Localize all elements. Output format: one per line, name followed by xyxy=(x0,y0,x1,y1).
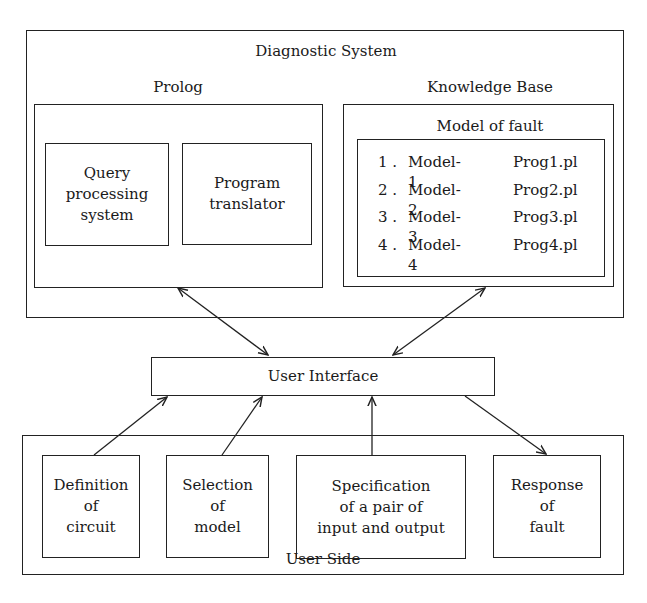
selection-of-model-label: Selection of model xyxy=(166,455,269,558)
program-translator-label: Program translator xyxy=(182,143,312,245)
knowledge-base-title: Knowledge Base xyxy=(400,77,580,97)
diagnostic-system-title: Diagnostic System xyxy=(226,41,426,61)
query-processing-system-label: Query processing system xyxy=(45,143,169,246)
definition-of-circuit-label: Definition of circuit xyxy=(42,455,140,558)
specification-input-output-label: Specification of a pair of input and out… xyxy=(296,455,466,559)
user-interface-title: User Interface xyxy=(151,366,495,386)
model-of-fault-title: Model of fault xyxy=(400,116,580,136)
response-of-fault-label: Response of fault xyxy=(493,455,601,558)
prolog-title: Prolog xyxy=(128,77,228,97)
